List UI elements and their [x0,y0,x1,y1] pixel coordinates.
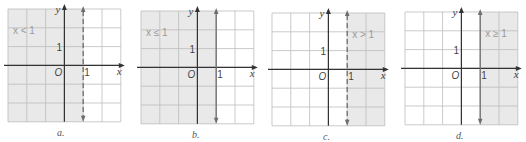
origin-label: O [318,71,326,82]
y-tick-label: 1 [453,45,459,56]
x-tick-label: 1 [481,70,487,81]
coordinate-grid: yxO11x > 1 [266,7,395,132]
y-axis-label: y [318,7,324,19]
inequality-label: x > 1 [352,29,374,40]
x-tick-label: 1 [84,67,90,78]
y-axis-arrow-icon [195,6,200,12]
y-tick-label: 1 [320,46,326,57]
x-axis-label: x [249,67,255,79]
inequality-label: x ≤ 1 [146,27,168,38]
graph-caption: c. [323,131,330,142]
graph-panel-b: yxO11x ≤ 1 [135,5,264,130]
graph-caption: a. [57,127,65,138]
y-tick-label: 1 [189,44,195,55]
y-axis-label: y [451,6,457,18]
x-axis-label: x [513,68,519,80]
x-tick-label: 1 [217,69,223,80]
graph-caption: d. [456,130,464,141]
y-axis-arrow-icon [459,7,464,13]
coordinate-grid: yxO11x ≥ 1 [399,6,526,131]
y-tick-label: 1 [56,42,62,53]
origin-label: O [451,70,459,81]
graph-panel-d: yxO11x ≥ 1 [399,6,526,131]
graph-caption: b. [192,129,200,140]
inequality-label: x ≥ 1 [485,28,507,39]
coordinate-grid: yxO11x < 1 [2,3,131,128]
y-axis-label: y [187,5,193,17]
x-tick-label: 1 [348,71,354,82]
origin-label: O [187,69,195,80]
x-axis-label: x [116,65,122,77]
inequality-label: x < 1 [13,25,35,36]
y-axis-label: y [54,3,60,15]
coordinate-grid: yxO11x ≤ 1 [135,5,264,130]
graph-panel-c: yxO11x > 1 [266,7,395,132]
origin-label: O [54,67,62,78]
x-axis-label: x [380,69,386,81]
y-axis-arrow-icon [62,4,67,10]
graph-panel-a: yxO11x < 1 [2,3,131,128]
y-axis-arrow-icon [326,8,331,14]
